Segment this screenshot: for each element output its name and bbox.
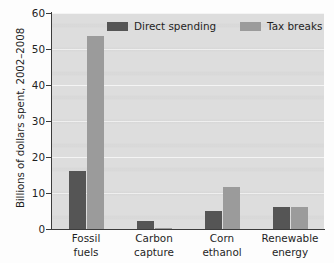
bar [69,171,86,229]
x-axis-category-label-line: Renewable [256,232,324,246]
x-axis-category-label-line: Fossil [52,232,120,246]
x-axis-category-label: Fossilfuels [52,232,120,259]
x-axis-category-label-line: Carbon [120,232,188,246]
y-axis-tick-mark [46,49,51,50]
y-axis-tick-label: 20 [17,152,45,162]
y-axis-tick-mark [46,13,51,14]
gridline [52,13,324,14]
y-axis-tick-label: 0 [17,224,45,234]
y-axis-line [51,12,52,230]
x-axis-category-label-line: capture [120,246,188,260]
legend-label: Direct spending [134,21,216,31]
x-axis-line [51,229,325,230]
y-axis-tick-label: 30 [17,116,45,126]
y-axis-tick-mark [46,193,51,194]
bar [137,221,154,229]
legend-item: Direct spending [107,21,216,31]
x-axis-category-label-line: fuels [52,246,120,260]
x-axis-category-label: Cornethanol [188,232,256,259]
bar [273,207,290,229]
x-axis-category-label-line: ethanol [188,246,256,260]
legend-swatch-tax [240,22,261,31]
x-axis-category-label-line: Corn [188,232,256,246]
y-axis-tick-mark [46,85,51,86]
y-axis-tick-label: 40 [17,80,45,90]
legend-label: Tax breaks [267,21,322,31]
bar-chart: Billions of dollars spent, 2002–2008 010… [0,0,334,263]
y-axis-tick-mark [46,229,51,230]
chart-legend: Direct spendingTax breaks [107,19,322,33]
y-axis-tick-label: 10 [17,188,45,198]
bar [291,207,308,229]
y-axis-tick-label: 50 [17,44,45,54]
y-axis-tick-label: 60 [17,8,45,18]
legend-item: Tax breaks [240,21,322,31]
bar [205,211,222,229]
bar [87,36,104,229]
y-axis-tick-mark [46,121,51,122]
legend-swatch-direct [107,22,128,31]
x-axis-category-label: Renewableenergy [256,232,324,259]
y-axis-tick-mark [46,157,51,158]
bar [223,187,240,229]
x-axis-category-labels: FossilfuelsCarboncaptureCornethanolRenew… [52,232,324,263]
x-axis-category-label-line: energy [256,246,324,260]
y-axis-tick-labels: 0102030405060 [17,0,45,263]
x-axis-category-label: Carboncapture [120,232,188,259]
plot-area [52,13,324,229]
